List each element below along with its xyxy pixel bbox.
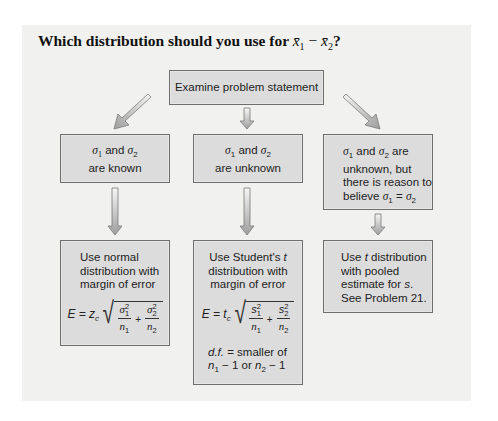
condition-known-line2: are known: [61, 162, 169, 176]
and-text: and: [102, 144, 128, 156]
df-line1: d.f. = smaller of: [208, 346, 302, 360]
plus-sign: +: [267, 313, 273, 327]
pooled-line1: Use t distribution: [341, 251, 432, 265]
numerator-1: s21: [249, 303, 263, 319]
root-box-examine: Examine problem statement: [169, 70, 324, 105]
formula-lhs-sub: c: [227, 315, 231, 324]
student-line1: Use Student's t: [194, 251, 302, 265]
numerator-1: σ21: [118, 303, 132, 319]
den-sub: 2: [284, 326, 288, 335]
square-root: √ s21 n1 + s22 n2: [232, 298, 295, 337]
condition-equal-line3: there is reason to: [343, 176, 432, 190]
denominator-2: n2: [147, 319, 157, 337]
arrow-unknown-to-student-t: [240, 188, 254, 236]
student-line3: margin of error: [194, 278, 302, 292]
question-mark: ?: [333, 32, 341, 49]
normal-margin-formula: E = zc √ σ21 n1 + σ22 n2: [61, 298, 169, 337]
formula-lhs: E = zc: [67, 308, 99, 326]
df-line2: n1 − 1 or n2 − 1: [208, 359, 302, 377]
normal-line1: Use normal: [80, 251, 169, 265]
pooled-line3-prefix: estimate for: [341, 278, 404, 290]
x2-bar: x̄2: [321, 32, 333, 49]
diagram-title: Which distribution should you use for x̄…: [38, 32, 341, 52]
formula-lhs: E = tc: [202, 308, 231, 326]
num-sub: 1: [125, 310, 129, 317]
fraction-1: s21 n1: [249, 303, 263, 337]
root-label: Examine problem statement: [175, 81, 318, 95]
num-sub: 1: [257, 310, 261, 317]
den-sub: 1: [257, 326, 261, 335]
outcome-box-student-t: Use Student's t distribution with margin…: [193, 240, 303, 385]
condition-known-line1: σ1 and σ2: [61, 144, 169, 162]
condition-unknown-line1: σ1 and σ2: [194, 144, 302, 162]
x1-bar: x̄1: [293, 32, 305, 49]
believe-text: believe: [343, 190, 383, 202]
normal-line3: margin of error: [80, 278, 169, 292]
sigma-sub: 2: [133, 150, 137, 159]
condition-equal-line1: σ1 and σ2 are: [343, 145, 432, 163]
pooled-line3-suffix: .: [410, 278, 413, 290]
x2-symbol: x̄: [321, 32, 328, 49]
den-sub: 1: [125, 326, 129, 335]
fraction-2: σ22 n2: [145, 303, 159, 337]
student-margin-formula: E = tc √ s21 n1 + s22 n2: [194, 298, 302, 337]
pooled-line1-prefix: Use: [341, 251, 365, 263]
plus-sign: +: [135, 313, 141, 327]
condition-equal-line4: believe σ1 = σ2: [343, 190, 432, 208]
outcome-box-normal: Use normal distribution with margin of e…: [60, 240, 170, 346]
condition-box-unknown: σ1 and σ2 are unknown: [193, 134, 303, 183]
arrow-equal-to-pooled-t: [371, 214, 385, 236]
and-text: and: [235, 144, 261, 156]
arrow-to-unknown-equal: [342, 93, 382, 131]
formula-lhs-text: E = z: [67, 307, 95, 321]
minus-sign: −: [305, 32, 322, 49]
num-sub: 2: [284, 310, 288, 317]
condition-box-unknown-equal: σ1 and σ2 are unknown, but there is reas…: [323, 134, 433, 210]
denominator-1: n1: [120, 319, 130, 337]
df-mid: − 1 or: [219, 359, 255, 371]
numerator-2: σ22: [145, 303, 159, 319]
outcome-box-pooled-t: Use t distribution with pooled estimate …: [323, 240, 433, 313]
radical-sign-icon: √: [103, 298, 115, 337]
radical-sign-icon: √: [234, 298, 246, 337]
condition-box-known: σ1 and σ2 are known: [60, 134, 170, 183]
arrow-known-to-normal: [108, 188, 122, 236]
student-line2: distribution with: [194, 265, 302, 279]
formula-lhs-text: E = t: [202, 307, 227, 321]
condition-unknown-line2: are unknown: [194, 162, 302, 176]
equals-sign: =: [393, 190, 406, 202]
df-text: = smaller of: [224, 346, 287, 358]
radicand: s21 n1 + s22 n2: [245, 301, 294, 337]
numerator-2: s22: [277, 303, 291, 319]
denominator-1: n1: [251, 319, 261, 337]
title-text: Which distribution should you use for: [38, 32, 293, 49]
num-sub: 2: [152, 310, 156, 317]
denominator-2: n2: [279, 319, 289, 337]
sigma-sub: 2: [412, 196, 416, 205]
pooled-line3: estimate for s.: [341, 278, 432, 292]
fraction-1: σ21 n1: [118, 303, 132, 337]
pooled-line4: See Problem 21.: [341, 292, 432, 306]
fraction-2: s22 n2: [277, 303, 291, 337]
and-text: and: [353, 145, 379, 157]
df-label: d.f.: [208, 346, 224, 358]
df-end: − 1: [266, 359, 286, 371]
radicand: σ21 n1 + σ22 n2: [114, 301, 163, 337]
pooled-line1-suffix: distribution: [368, 251, 427, 263]
t-var: t: [284, 251, 287, 263]
x1-symbol: x̄: [293, 32, 300, 49]
sigma-sub: 2: [266, 150, 270, 159]
den-sub: 2: [152, 326, 156, 335]
normal-line2: distribution with: [80, 265, 169, 279]
are-text: are: [389, 145, 409, 157]
arrow-to-unknown: [240, 108, 254, 130]
square-root: √ σ21 n1 + σ22 n2: [100, 298, 163, 337]
formula-lhs-sub: c: [95, 315, 99, 324]
degrees-of-freedom: d.f. = smaller of n1 − 1 or n2 − 1: [194, 337, 302, 377]
arrow-to-known: [112, 93, 152, 131]
pooled-line2: with pooled: [341, 265, 432, 279]
student-line1-text: Use Student's: [209, 251, 283, 263]
condition-equal-line2: unknown, but: [343, 163, 432, 177]
